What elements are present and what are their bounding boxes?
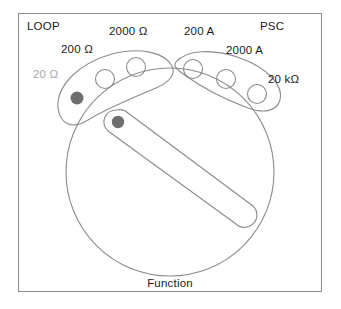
corner-label-loop: LOOP (27, 20, 60, 32)
selected-position-dot-20-ohm[interactable] (71, 92, 84, 105)
figure-canvas: LOOP PSC 20 Ω 200 Ω 2000 Ω 200 A 2000 A … (0, 0, 341, 309)
label-2000-ohm: 2000 Ω (109, 25, 148, 37)
label-2000-a: 2000 A (226, 44, 263, 56)
dial-illustration (0, 0, 341, 309)
caption-function: Function (147, 277, 193, 289)
right-arc-plate[interactable] (175, 52, 281, 111)
label-20-kohm: 20 kΩ (268, 73, 299, 85)
position-2000-a[interactable] (217, 70, 236, 89)
label-200-a: 200 A (184, 25, 214, 37)
label-20-ohm: 20 Ω (33, 68, 58, 80)
pointer-selection-dot[interactable] (112, 116, 124, 128)
position-20-kohm[interactable] (248, 85, 267, 104)
corner-label-psc: PSC (260, 20, 284, 32)
dial-pointer[interactable] (104, 110, 257, 228)
dial-face[interactable] (66, 68, 274, 276)
position-200-ohm[interactable] (96, 70, 115, 89)
label-200-ohm: 200 Ω (61, 43, 93, 55)
left-arc-plate[interactable] (58, 51, 173, 125)
